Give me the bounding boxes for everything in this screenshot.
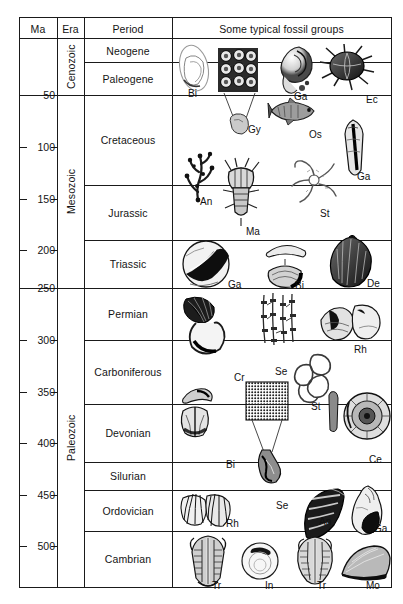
fossil-label-mo: Mo: [366, 580, 380, 591]
axis-tick-500: 500: [22, 540, 55, 552]
fossil-label-ga-cretaceous: Ga: [357, 171, 370, 182]
fossil-label-ma: Ma: [246, 226, 260, 237]
axis-tick-350: 350: [22, 386, 55, 398]
fossil-label-rh-ordovician: Rh: [226, 518, 239, 529]
fossil-label-cr: Cr: [234, 372, 245, 383]
fossil-label-se-devonian: Se: [276, 500, 288, 511]
axis-tick-50: 50: [22, 89, 55, 101]
fossil-label-ga-ordovician: Ga: [374, 523, 387, 534]
fossil-label-ce: Ce: [369, 454, 382, 465]
fossil-label-ec: Ec: [366, 94, 378, 105]
axis-tick-250: 250: [22, 282, 55, 294]
fossil-label-an-cretaceous: An: [200, 196, 212, 207]
fossil-label-ga-cenozoic: Ga: [294, 91, 307, 102]
chart-grid: [0, 0, 403, 604]
fossil-label-in: In: [265, 580, 273, 591]
axis-tick-400: 400: [22, 437, 55, 449]
fossil-label-tr-2: Tr: [317, 580, 326, 591]
fossil-label-bi-cenozoic: Bi: [188, 88, 197, 99]
fossil-label-rh-permian: Rh: [354, 344, 367, 355]
fossil-label-gy: Gy: [248, 124, 261, 135]
geologic-time-scale-chart: Ma Era Period Some typical fossil groups…: [0, 0, 403, 604]
fossil-label-ga-triassic: Ga: [228, 279, 241, 290]
axis-tick-200: 200: [22, 244, 55, 256]
axis-tick-450: 450: [22, 489, 55, 501]
fossil-label-se-permian: Se: [275, 366, 287, 377]
fossil-label-an-ordovician: An: [319, 516, 331, 527]
axis-tick-300: 300: [22, 334, 55, 346]
fossil-label-st-jurassic: St: [320, 208, 329, 219]
fossil-label-tr-1: Tr: [212, 580, 221, 591]
axis-tick-150: 150: [22, 193, 55, 205]
fossil-label-os: Os: [309, 129, 322, 140]
fossil-label-bi-triassic: Bi: [295, 280, 304, 291]
axis-tick-100: 100: [22, 141, 55, 153]
fossil-label-de: De: [367, 278, 380, 289]
fossil-label-st-carboniferous: St: [311, 401, 320, 412]
fossil-label-bi-devonian: Bi: [226, 459, 235, 470]
